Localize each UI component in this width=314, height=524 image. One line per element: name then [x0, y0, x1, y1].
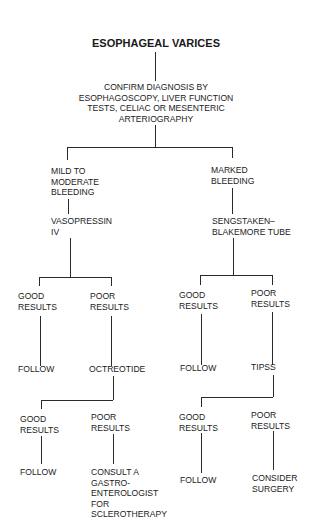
node-consider-surgery: CONSIDER SURGERY — [252, 473, 297, 494]
node-text-line: SURGERY — [252, 484, 297, 495]
connector-line — [155, 125, 156, 147]
connector-line — [41, 400, 42, 409]
node-poor-results: POOR RESULTS — [251, 288, 290, 309]
connector-line — [201, 314, 202, 365]
node-text-line: BLEEDING — [211, 176, 254, 187]
connector-line — [67, 147, 68, 160]
connector-line — [39, 277, 40, 286]
connector-line — [273, 375, 274, 397]
node-text-line: TESTS, CELIAC OR MESENTERIC — [79, 103, 234, 114]
connector-line — [111, 316, 112, 366]
node-text-line: TIPSS — [251, 362, 276, 373]
node-consult-gastroenterologist: CONSULT A GASTRO- ENTEROLOGIST FOR SCLER… — [91, 467, 167, 520]
node-text-line: GOOD — [179, 412, 218, 423]
connector-line — [273, 431, 274, 470]
node-text-line: ARTERIOGRAPHY — [79, 114, 234, 125]
connector-line — [155, 52, 156, 81]
node-text-line: FOR — [91, 499, 167, 510]
node-text-line: RESULTS — [91, 423, 130, 434]
node-text-line: OCTREOTIDE — [89, 364, 145, 375]
node-text-line: MARKED — [211, 165, 254, 176]
node-text-line: BLAKEMORE TUBE — [212, 227, 291, 238]
connector-line — [67, 147, 233, 148]
connector-line — [40, 316, 41, 366]
node-text-line: CONSULT A — [91, 467, 167, 478]
node-text-line: FOLLOW — [180, 475, 216, 486]
node-text-line: POOR — [90, 291, 129, 302]
connector-line — [232, 147, 233, 158]
node-text-line: BLEEDING — [51, 187, 99, 198]
node-follow: FOLLOW — [180, 363, 216, 374]
node-follow: FOLLOW — [18, 364, 54, 375]
connector-line — [41, 436, 42, 464]
node-sengstaken-blakemore-tube: SENGSTAKEN– BLAKEMORE TUBE — [212, 216, 291, 237]
node-mild-bleeding: MILD TO MODERATE BLEEDING — [51, 166, 99, 198]
node-text-line: GASTRO- — [91, 478, 167, 489]
connector-line — [68, 199, 69, 214]
connector-line — [111, 277, 112, 286]
connector-line — [39, 277, 111, 278]
connector-line — [41, 400, 113, 401]
node-text-line: FOLLOW — [180, 363, 216, 374]
node-text-line: RESULTS — [179, 423, 218, 434]
node-text-line: GOOD — [179, 290, 218, 301]
connector-line — [113, 376, 114, 400]
node-text-line: MODERATE — [51, 177, 99, 188]
connector-line — [70, 238, 71, 277]
node-text-line: RESULTS — [251, 421, 290, 432]
node-marked-bleeding: MARKED BLEEDING — [211, 165, 254, 186]
node-text-line: GOOD — [20, 414, 59, 425]
node-text-line: CONSIDER — [252, 473, 297, 484]
node-poor-results: POOR RESULTS — [91, 412, 130, 433]
node-text-line: RESULTS — [90, 302, 129, 313]
node-text-line: SCLEROTHERAPY — [91, 509, 167, 520]
node-text-line: MILD TO — [51, 166, 99, 177]
connector-line — [232, 188, 233, 214]
node-text-line: RESULTS — [20, 425, 59, 436]
node-poor-results: POOR RESULTS — [251, 410, 290, 431]
node-text-line: GOOD — [18, 291, 57, 302]
node-follow: FOLLOW — [180, 475, 216, 486]
node-text-line: RESULTS — [251, 299, 290, 310]
connector-line — [233, 238, 234, 275]
node-vasopressin: VASOPRESSIN IV — [51, 216, 112, 237]
node-good-results: GOOD RESULTS — [20, 414, 59, 435]
connector-line — [200, 275, 272, 276]
connector-line — [272, 312, 273, 365]
node-text-line: ESOPHAGOSCOPY, LIVER FUNCTION — [79, 93, 234, 104]
connector-line — [201, 397, 273, 398]
node-text-line: CONFIRM DIAGNOSIS BY — [79, 82, 234, 93]
node-good-results: GOOD RESULTS — [179, 290, 218, 311]
node-good-results: GOOD RESULTS — [179, 412, 218, 433]
connector-line — [113, 434, 114, 464]
connector-line — [201, 397, 202, 407]
node-text-line: FOLLOW — [18, 364, 54, 375]
node-text-line: SENGSTAKEN– — [212, 216, 291, 227]
node-text-line: VASOPRESSIN — [51, 216, 112, 227]
node-text-line: ENTEROLOGIST — [91, 488, 167, 499]
node-confirm-diagnosis: CONFIRM DIAGNOSIS BY ESOPHAGOSCOPY, LIVE… — [79, 82, 234, 124]
flowchart-title: ESOPHAGEAL VARICES — [92, 37, 220, 50]
node-text-line: IV — [51, 227, 112, 238]
node-text-line: POOR — [251, 288, 290, 299]
node-text-line: POOR — [251, 410, 290, 421]
node-octreotide: OCTREOTIDE — [89, 364, 145, 375]
node-text-line: RESULTS — [18, 302, 57, 313]
node-good-results: GOOD RESULTS — [18, 291, 57, 312]
node-poor-results: POOR RESULTS — [90, 291, 129, 312]
node-text-line: RESULTS — [179, 301, 218, 312]
node-text-line: FOLLOW — [20, 467, 56, 478]
node-tipss: TIPSS — [251, 362, 276, 373]
connector-line — [201, 433, 202, 473]
flowchart-canvas: ESOPHAGEAL VARICES CONFIRM DIAGNOSIS BY … — [0, 0, 314, 524]
connector-line — [200, 275, 201, 285]
node-text-line: POOR — [91, 412, 130, 423]
node-follow: FOLLOW — [20, 467, 56, 478]
connector-line — [272, 275, 273, 285]
